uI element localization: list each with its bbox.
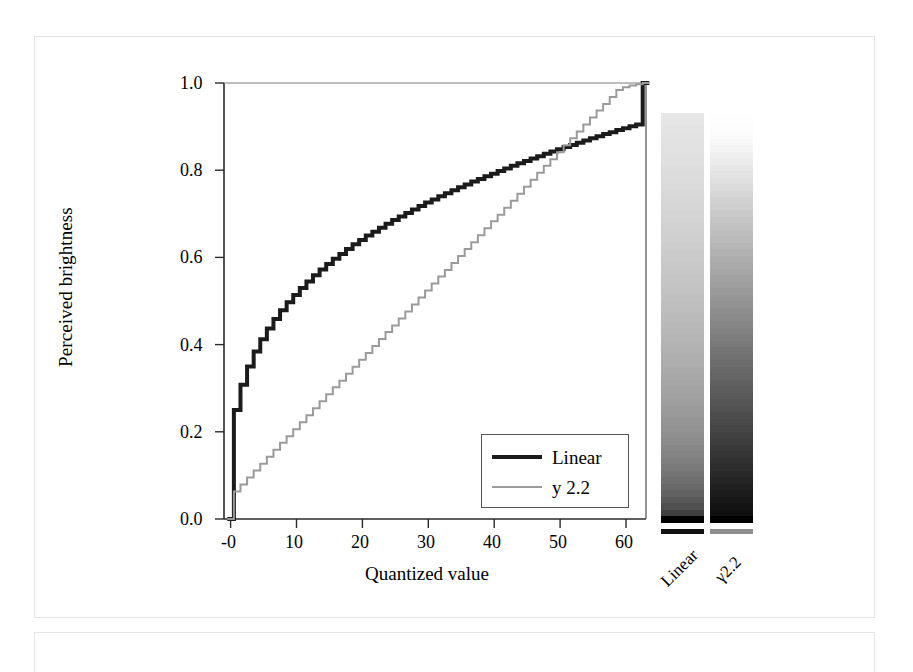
next-panel [34, 632, 875, 672]
gradient-bar-gamma [710, 106, 753, 523]
legend-label-gamma: y 2.2 [552, 478, 590, 497]
legend-item-linear: Linear [482, 442, 628, 472]
x-tick-label: 60 [615, 532, 633, 553]
y-tick-label: 0.8 [180, 160, 203, 181]
y-tick-label: 0.0 [180, 509, 203, 530]
x-tick-label: -0 [221, 532, 236, 553]
y-tick-label: 1.0 [180, 73, 203, 94]
legend-item-gamma: y 2.2 [482, 472, 628, 502]
gradient-underline-gamma [710, 529, 753, 534]
legend-swatch-gamma [492, 486, 542, 488]
y-tick-label: 0.2 [180, 422, 203, 443]
figure-panel: Perceived brightness Quantized value 0.0… [34, 36, 875, 618]
chart-area: Perceived brightness Quantized value 0.0… [35, 37, 876, 619]
gradient-underline-linear [661, 529, 704, 534]
legend-swatch-linear [492, 455, 542, 459]
x-tick-label: 10 [285, 532, 303, 553]
gradient-bar-linear [661, 106, 704, 523]
x-axis-title: Quantized value [365, 563, 489, 585]
x-tick-label: 30 [417, 532, 435, 553]
legend-label-linear: Linear [552, 448, 602, 467]
x-tick-label: 20 [351, 532, 369, 553]
y-axis-title: Perceived brightness [55, 207, 77, 367]
x-tick-label: 50 [549, 532, 567, 553]
x-tick-marks [231, 519, 626, 528]
chart-legend: Linear y 2.2 [481, 434, 629, 508]
y-tick-label: 0.4 [180, 335, 203, 356]
y-tick-label: 0.6 [180, 247, 203, 268]
x-tick-label: 40 [483, 532, 501, 553]
y-tick-marks [215, 83, 224, 519]
